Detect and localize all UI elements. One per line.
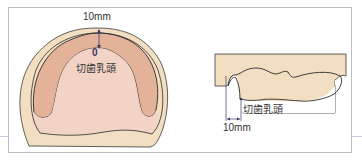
occlusal-landmark-label: 切歯乳頭 xyxy=(76,60,116,75)
sagittal-landmark-label: 切歯乳頭 xyxy=(243,101,283,116)
sagittal-dimension-label: 10mm xyxy=(223,122,251,133)
occlusal-arch xyxy=(20,28,168,147)
reference-point-label: 0 xyxy=(92,47,98,58)
occlusal-dimension-label: 10mm xyxy=(83,11,111,22)
diagram-canvas xyxy=(0,0,362,161)
